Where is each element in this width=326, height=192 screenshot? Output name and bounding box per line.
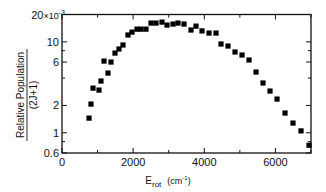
plot-border bbox=[62, 15, 311, 154]
plot-frame bbox=[62, 15, 311, 154]
data-point bbox=[274, 96, 279, 101]
data-point bbox=[181, 21, 186, 26]
data-point bbox=[260, 80, 265, 85]
x-tick-label: 4000 bbox=[192, 156, 216, 168]
data-point bbox=[96, 87, 101, 92]
data-point bbox=[98, 78, 103, 83]
y-axis-ticks: 20×10-3106210.6 bbox=[31, 9, 311, 160]
data-point bbox=[213, 30, 218, 35]
y-axis-title-numerator: Relative Population bbox=[15, 52, 26, 138]
data-point bbox=[290, 120, 295, 125]
data-point bbox=[164, 22, 169, 27]
data-point bbox=[90, 86, 95, 91]
data-point bbox=[239, 52, 244, 57]
data-points bbox=[86, 19, 311, 147]
y-tick-label: 2 bbox=[53, 99, 59, 111]
x-tick-label: 6000 bbox=[263, 156, 287, 168]
data-point bbox=[253, 69, 258, 74]
data-point bbox=[206, 30, 211, 35]
data-point bbox=[232, 49, 237, 54]
data-point bbox=[306, 143, 311, 148]
y-tick-label: 20×10-3 bbox=[31, 9, 65, 21]
data-point bbox=[246, 57, 251, 62]
data-point bbox=[188, 27, 193, 32]
y-axis-title-denominator: (2J+1) bbox=[28, 81, 39, 110]
y-tick-label: 0.6 bbox=[44, 147, 59, 159]
y-axis-title: Relative Population (2J+1) bbox=[15, 49, 39, 141]
data-point bbox=[153, 20, 158, 25]
x-tick-label: 0 bbox=[59, 156, 65, 168]
data-point bbox=[88, 101, 93, 106]
data-point bbox=[193, 24, 198, 29]
y-tick-label: 1 bbox=[53, 127, 59, 139]
data-point bbox=[159, 19, 164, 24]
data-point bbox=[298, 128, 303, 133]
data-point bbox=[218, 41, 223, 46]
data-point bbox=[101, 58, 106, 63]
x-tick-label: 2000 bbox=[121, 156, 145, 168]
x-axis-title: Erot(cm-1) bbox=[145, 175, 190, 189]
data-point bbox=[138, 27, 143, 32]
data-point bbox=[105, 70, 110, 75]
data-point bbox=[120, 42, 125, 47]
data-point bbox=[170, 21, 175, 26]
data-point bbox=[129, 30, 134, 35]
data-point bbox=[143, 27, 148, 32]
data-point bbox=[225, 43, 230, 48]
data-point bbox=[86, 116, 91, 121]
data-point bbox=[267, 88, 272, 93]
y-tick-label: 10 bbox=[47, 36, 59, 48]
chart: 0200040006000 20×10-3106210.6 Erot(cm-1)… bbox=[0, 0, 326, 192]
data-point bbox=[148, 20, 153, 25]
y-tick-label: 6 bbox=[53, 56, 59, 68]
data-point bbox=[108, 59, 113, 64]
data-point bbox=[199, 28, 204, 33]
data-point bbox=[175, 20, 180, 25]
data-point bbox=[282, 110, 287, 115]
